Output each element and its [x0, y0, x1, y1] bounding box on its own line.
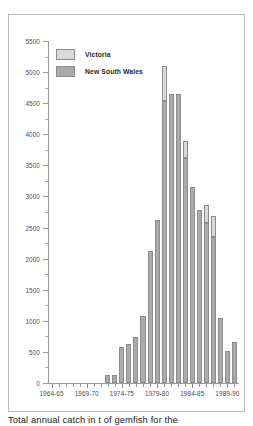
- x-axis-tick-major: [87, 384, 88, 388]
- x-axis-tick-minor: [150, 384, 151, 387]
- bar-column: [225, 351, 230, 383]
- x-axis-tick-minor: [73, 384, 74, 387]
- bar-segment-new-south-wales: [218, 318, 223, 383]
- plot-area: [48, 41, 238, 383]
- x-axis-tick-major: [52, 384, 53, 388]
- y-axis-label: 2500: [25, 224, 40, 231]
- chart-legend: Victoria New South Wales: [56, 48, 186, 82]
- bar-segment-new-south-wales: [126, 344, 131, 383]
- x-axis-tick-minor: [80, 384, 81, 387]
- x-axis-tick-minor: [129, 384, 130, 387]
- x-axis-tick-minor: [108, 384, 109, 387]
- bar-segment-new-south-wales: [148, 251, 153, 383]
- bar-column: [183, 141, 188, 384]
- bar-column: [140, 316, 145, 383]
- legend-item-new-south-wales: New South Wales: [56, 65, 186, 78]
- y-axis-label: 2000: [25, 255, 40, 262]
- x-axis-tick-minor: [234, 384, 235, 387]
- bar-column: [218, 318, 223, 383]
- y-axis-label: 500: [29, 348, 40, 355]
- bar-segment-new-south-wales: [140, 316, 145, 383]
- y-axis-label: 0: [36, 380, 40, 387]
- bar-column: [232, 342, 237, 383]
- y-axis-label: 5000: [25, 69, 40, 76]
- x-axis-tick-minor: [115, 384, 116, 387]
- x-axis-label: 1969-70: [75, 390, 99, 397]
- x-axis-label: 1979-80: [145, 390, 169, 397]
- bar-column: [211, 216, 216, 383]
- legend-label-new-south-wales: New South Wales: [85, 68, 143, 75]
- bar-segment-new-south-wales: [232, 342, 237, 383]
- bar-segment-new-south-wales: [155, 220, 160, 383]
- bar-segment-new-south-wales: [169, 94, 174, 383]
- legend-item-victoria: Victoria: [56, 48, 186, 61]
- bar-segment-victoria: [183, 141, 188, 158]
- bar-column: [176, 94, 181, 383]
- y-axis-tick-major: [43, 383, 48, 384]
- y-axis-label: 4500: [25, 100, 40, 107]
- x-axis-label: 1989-90: [215, 390, 239, 397]
- bar-segment-new-south-wales: [105, 375, 110, 383]
- x-axis-tick-minor: [143, 384, 144, 387]
- x-axis-tick-major: [122, 384, 123, 388]
- y-axis-label: 1500: [25, 286, 40, 293]
- x-axis-tick-minor: [94, 384, 95, 387]
- bar-segment-new-south-wales: [112, 375, 117, 383]
- bar-segment-new-south-wales: [133, 337, 138, 383]
- bar-column: [169, 94, 174, 383]
- legend-swatch-new-south-wales: [56, 66, 75, 77]
- y-axis-label: 4000: [25, 131, 40, 138]
- x-axis-label: 1974-75: [110, 390, 134, 397]
- x-axis-tick-minor: [171, 384, 172, 387]
- x-axis-tick-major: [157, 384, 158, 388]
- x-axis-label: 1984-85: [180, 390, 204, 397]
- x-axis-tick-minor: [185, 384, 186, 387]
- bar-segment-victoria: [211, 216, 216, 237]
- x-axis-tick-minor: [206, 384, 207, 387]
- x-axis-tick-minor: [59, 384, 60, 387]
- bar-column: [105, 375, 110, 383]
- legend-label-victoria: Victoria: [85, 51, 111, 58]
- x-axis-tick-minor: [101, 384, 102, 387]
- x-axis-tick-minor: [220, 384, 221, 387]
- y-axis-label: 5500: [25, 38, 40, 45]
- bar-column: [126, 344, 131, 383]
- bar-column: [119, 347, 124, 383]
- chart-frame: 0500100015002000250030003500400045005000…: [8, 14, 245, 412]
- bar-column: [190, 187, 195, 383]
- x-axis-tick-minor: [66, 384, 67, 387]
- y-axis-label: 3500: [25, 162, 40, 169]
- bar-segment-new-south-wales: [204, 223, 209, 383]
- y-axis-label: 3000: [25, 193, 40, 200]
- x-axis-tick-minor: [213, 384, 214, 387]
- bar-column: [112, 375, 117, 383]
- bar-column: [162, 66, 167, 383]
- x-axis-tick-minor: [136, 384, 137, 387]
- x-axis-tick-minor: [199, 384, 200, 387]
- bar-segment-new-south-wales: [119, 347, 124, 383]
- bar-segment-new-south-wales: [183, 158, 188, 383]
- x-axis-tick-minor: [178, 384, 179, 387]
- bar-segment-new-south-wales: [190, 187, 195, 383]
- y-axis-label: 1000: [25, 317, 40, 324]
- x-axis-label: 1964-65: [39, 390, 63, 397]
- bar-column: [148, 251, 153, 383]
- x-axis-tick-major: [227, 384, 228, 388]
- bar-column: [204, 205, 209, 383]
- x-axis-tick-minor: [164, 384, 165, 387]
- bar-segment-new-south-wales: [225, 351, 230, 383]
- bar-column: [155, 220, 160, 383]
- figure: 0500100015002000250030003500400045005000…: [0, 0, 253, 426]
- legend-swatch-victoria: [56, 49, 75, 60]
- bar-column: [197, 210, 202, 383]
- figure-caption: Total annual catch in t of gemfish for t…: [8, 414, 251, 426]
- bar-segment-new-south-wales: [176, 94, 181, 383]
- x-axis-tick-major: [192, 384, 193, 388]
- bar-segment-victoria: [204, 205, 209, 224]
- bar-segment-new-south-wales: [162, 101, 167, 383]
- bar-segment-new-south-wales: [197, 210, 202, 383]
- bar-segment-new-south-wales: [211, 237, 216, 383]
- bar-column: [133, 337, 138, 383]
